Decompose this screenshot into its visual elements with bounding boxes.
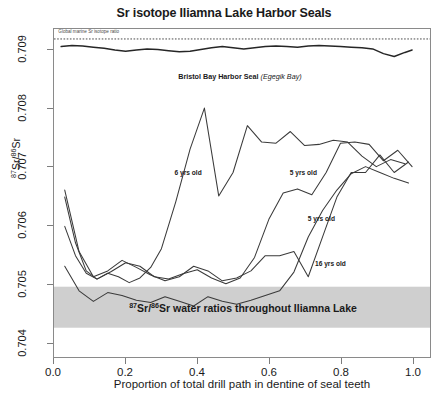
y-tick-0.709: 0.709 [0,49,53,50]
y-tick-0.706: 0.706 [0,225,53,226]
y-tick-0.704: 0.704 [0,343,53,344]
x-tick-label: 0.8 [317,366,365,378]
y-axis-sr: Sr [10,138,22,149]
y-tick-label: 0.707 [0,144,44,188]
series-line-6-yrs-old [65,108,405,283]
x-axis-title: Proportion of total drill path in dentin… [53,378,431,390]
y-tick-label: 0.708 [0,86,44,130]
series-line-5-yrs-old-upper [65,142,412,284]
x-tick-label: 0.0 [29,366,77,378]
series-line-5-yrs-old-lower [65,155,409,281]
x-tick-label: 0.4 [173,366,221,378]
y-axis-sr-slash: Sr/ [10,157,22,170]
x-tick-mark [53,358,54,364]
y-axis-title: 87Sr/86Sr [10,98,22,218]
y-tick-label: 0.704 [0,321,44,365]
x-tick-mark [413,358,414,364]
y-tick-0.707: 0.707 [0,166,53,167]
y-tick-label: 0.706 [0,203,44,247]
figure-container: Sr isotope Iliamna Lake Harbor Seals 0.7… [0,0,448,412]
x-tick-label: 0.6 [245,366,293,378]
x-tick-label: 0.2 [101,366,149,378]
y-tick-label: 0.709 [0,27,44,71]
series-line-bristol-bay-harbor-seal-egegik-bay [61,45,412,56]
y-tick-0.705: 0.705 [0,284,53,285]
x-tick-mark [341,358,342,364]
y-axis-sup-86: 86 [10,149,18,157]
y-tick-0.708: 0.708 [0,108,53,109]
x-tick-mark [197,358,198,364]
x-tick-mark [269,358,270,364]
plot-area: Global marine Sr isotope ratio Bristol B… [53,28,431,358]
y-tick-label: 0.705 [0,262,44,306]
plot-svg [54,29,430,357]
chart-title: Sr isotope Iliamna Lake Harbor Seals [0,6,448,20]
x-tick-label: 1.0 [389,366,437,378]
x-tick-mark [125,358,126,364]
y-axis-sup-87: 87 [10,170,18,178]
figure-caption [6,400,442,410]
series-line-16-yrs-old [65,167,409,306]
